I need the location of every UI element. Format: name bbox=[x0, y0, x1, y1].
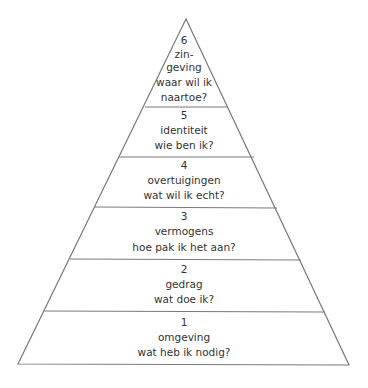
level-4-number: 4 bbox=[0, 159, 368, 171]
level-3-question: hoe pak ik het aan? bbox=[0, 241, 368, 253]
level-1-question: wat heb ik nodig? bbox=[0, 346, 368, 358]
level-5-number: 5 bbox=[0, 109, 368, 121]
level-3-number: 3 bbox=[0, 210, 368, 222]
level-4-title: overtuigingen bbox=[0, 174, 368, 186]
level-6-question-line1: waar wil ik bbox=[0, 76, 368, 88]
level-6-title-line1: zin- bbox=[0, 48, 368, 60]
divider-3-2 bbox=[70, 259, 301, 260]
level-2-title: gedrag bbox=[0, 278, 368, 290]
level-1-number: 1 bbox=[0, 316, 368, 328]
level-3-title: vermogens bbox=[0, 225, 368, 237]
level-6-question-line2: naartoe? bbox=[0, 91, 368, 103]
level-6-number: 6 bbox=[0, 34, 368, 46]
level-5-title: identiteit bbox=[0, 124, 368, 136]
level-6-title-line2: geving bbox=[0, 61, 368, 73]
level-4-question: wat wil ik echt? bbox=[0, 189, 368, 201]
level-2-number: 2 bbox=[0, 263, 368, 275]
level-1-title: omgeving bbox=[0, 331, 368, 343]
divider-2-1 bbox=[44, 311, 325, 312]
level-2-question: wat doe ik? bbox=[0, 293, 368, 305]
divider-4-3 bbox=[95, 207, 277, 208]
level-5-question: wie ben ik? bbox=[0, 139, 368, 151]
